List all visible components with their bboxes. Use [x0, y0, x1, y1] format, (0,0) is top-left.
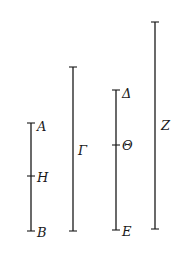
label-b: B [36, 225, 47, 240]
segment-gamma: Γ [69, 67, 88, 231]
label-theta: Θ [122, 138, 133, 153]
diagram-canvas: A H B Γ Δ Θ E Z [0, 0, 185, 258]
label-e: E [121, 224, 132, 239]
segment-ab: A H B [27, 119, 49, 240]
label-z: Z [160, 118, 171, 133]
segment-z: Z [151, 22, 171, 229]
label-h: H [36, 170, 49, 185]
label-gamma: Γ [77, 143, 88, 158]
label-a: A [36, 119, 46, 134]
label-delta: Δ [121, 86, 131, 101]
segment-delta-e: Δ Θ E [112, 86, 133, 239]
